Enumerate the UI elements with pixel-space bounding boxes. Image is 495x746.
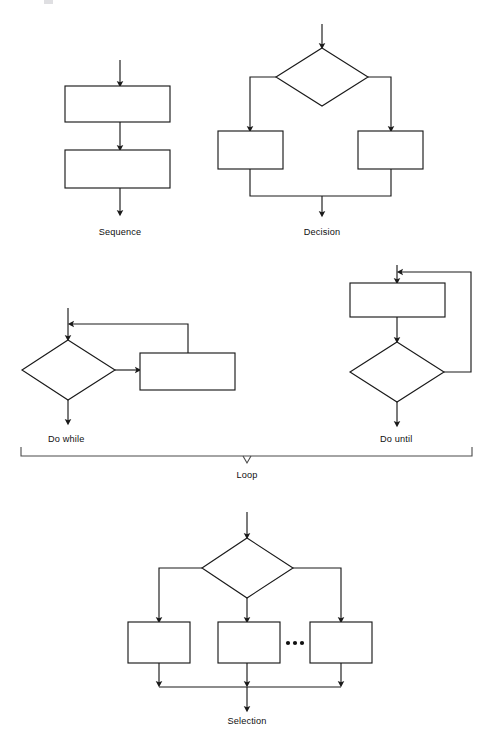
decision-process-box-right (358, 131, 423, 169)
decision-right-branch-arrow (368, 77, 391, 129)
construct-decision: Decision (218, 24, 423, 237)
selection-diamond (202, 538, 293, 598)
decision-left-branch-arrow (250, 77, 276, 129)
selection-branch-arrow-left (159, 568, 202, 620)
ellipsis-icon (286, 641, 304, 645)
do-until-diamond (350, 342, 444, 402)
decision-diamond (276, 48, 368, 106)
loop-label: Loop (236, 470, 257, 480)
flowchart-figure: Sequence Decision (0, 0, 495, 746)
loop-bracket (21, 447, 472, 456)
scan-artifact (44, 0, 53, 4)
do-while-feedback-path (71, 324, 188, 353)
sequence-label: Sequence (99, 227, 142, 237)
do-until-label: Do until (380, 434, 412, 444)
loop-bracket-tick (243, 456, 251, 463)
construct-do-while: Do while (22, 308, 235, 444)
do-until-process-box (350, 283, 445, 317)
selection-branch-arrow-right (293, 568, 341, 620)
do-while-label: Do while (48, 434, 84, 444)
selection-label: Selection (227, 716, 266, 726)
flowchart-canvas: Sequence Decision (0, 0, 495, 746)
sequence-process-box-2 (65, 150, 170, 188)
loop-bracket-group: Loop (21, 447, 472, 480)
decision-merge-path (250, 169, 391, 196)
sequence-process-box-1 (65, 86, 170, 122)
construct-selection: Selection (128, 512, 372, 726)
decision-label: Decision (304, 227, 340, 237)
selection-process-box-1 (128, 622, 190, 663)
construct-sequence: Sequence (65, 60, 170, 237)
selection-process-box-2 (218, 622, 280, 663)
selection-process-box-3 (310, 622, 372, 663)
construct-do-until: Do until (350, 265, 471, 444)
do-while-diamond (22, 340, 115, 400)
do-while-process-box (140, 353, 235, 390)
decision-process-box-left (218, 131, 283, 169)
